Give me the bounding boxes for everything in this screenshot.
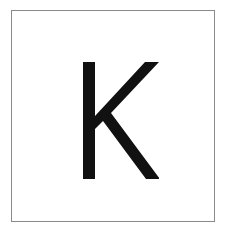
letter-k-shape (83, 62, 159, 179)
letter-text: K (12, 11, 13, 12)
letter-k-glyph (83, 62, 159, 179)
letter-card: K (11, 10, 215, 222)
